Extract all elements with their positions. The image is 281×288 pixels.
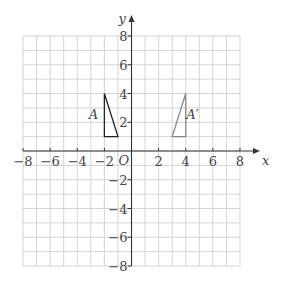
- x-axis-arrow-icon: [253, 148, 260, 154]
- x-tick-label: 4: [182, 154, 190, 169]
- x-tick-label: 2: [154, 154, 162, 169]
- triangle-a-prime: [172, 94, 186, 137]
- axes: x y O: [23, 11, 270, 266]
- triangle-label-a: A: [88, 107, 98, 122]
- y-tick-label: −2: [108, 173, 127, 188]
- origin-label: O: [119, 153, 130, 168]
- y-tick-label: −8: [108, 259, 127, 274]
- x-tick-label: 6: [209, 154, 217, 169]
- x-tick-label: −4: [68, 154, 87, 169]
- y-axis-label: y: [118, 11, 127, 26]
- triangle-a: [104, 94, 118, 137]
- y-tick-label: 2: [119, 115, 127, 130]
- coordinate-grid: x y O −8−6−4−22468 8642−2−4−6−8 AA′: [0, 0, 281, 288]
- x-tick-label: 8: [236, 154, 244, 169]
- x-tick-label: −6: [41, 154, 60, 169]
- y-tick-label: 6: [119, 58, 127, 73]
- triangle-label-a-prime: A′: [185, 107, 198, 122]
- y-tick-label: 4: [119, 87, 127, 102]
- x-tick-label: −2: [95, 154, 114, 169]
- y-tick-label: 8: [119, 29, 127, 44]
- shapes: AA′: [88, 94, 199, 137]
- y-tick-label: −6: [108, 230, 127, 245]
- x-axis-label: x: [262, 153, 270, 168]
- y-axis-arrow-icon: [129, 15, 135, 22]
- y-tick-label: −4: [108, 202, 127, 217]
- x-tick-label: −8: [13, 154, 32, 169]
